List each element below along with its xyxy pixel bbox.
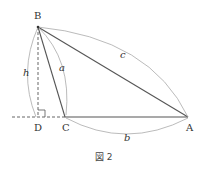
vertex-b-dot xyxy=(37,26,40,29)
triangle-diagram: B D C A h a c b 図 2 xyxy=(0,0,205,172)
label-b: B xyxy=(34,10,41,21)
label-a: A xyxy=(185,122,194,133)
label-d: D xyxy=(34,122,42,133)
right-angle-mark xyxy=(38,110,45,117)
figure-caption: 図 2 xyxy=(95,152,113,162)
label-side-a: a xyxy=(59,62,65,73)
label-side-c: c xyxy=(120,49,126,60)
label-side-b: b xyxy=(124,132,130,143)
label-c: C xyxy=(62,122,70,133)
label-side-h: h xyxy=(23,67,29,78)
